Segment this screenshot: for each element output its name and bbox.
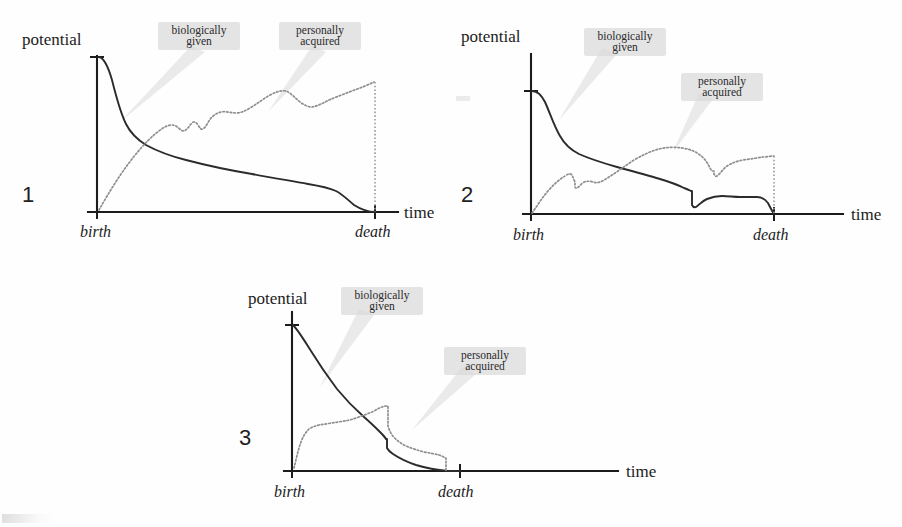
x-tick-label-death: death	[753, 226, 789, 243]
diagram-panel-2: potential 2 time birth death biologicall…	[451, 0, 902, 264]
scan-artifact-bottom-left	[2, 514, 54, 523]
figure-root: potential 1 time birth death biologicall…	[0, 0, 902, 527]
x-tick-label-birth: birth	[513, 226, 544, 243]
scan-artifact-center	[456, 96, 470, 101]
panel-number: 2	[461, 182, 473, 207]
x-axis-label: time	[851, 205, 881, 224]
x-tick-label-death: death	[438, 483, 474, 500]
diagram-panel-1: potential 1 time birth death biologicall…	[0, 0, 451, 264]
callout-tail-personally-acquired	[268, 46, 326, 112]
curve-biologically-given	[293, 325, 460, 471]
curve-personally-acquired	[532, 147, 774, 213]
curve-personally-acquired	[294, 406, 446, 471]
callout-tail-personally-acquired	[412, 367, 476, 430]
x-axis-label: time	[404, 203, 434, 222]
callout-personally-line2: acquired	[702, 86, 742, 99]
curve-biologically-given	[532, 91, 774, 214]
curve-biologically-given	[99, 57, 375, 212]
callout-biologically-line2: given	[186, 35, 212, 48]
callout-personally-line2: acquired	[300, 35, 340, 48]
y-axis-label: potential	[248, 289, 308, 308]
callout-biologically-line2: given	[612, 41, 638, 54]
panel-number: 1	[22, 182, 34, 207]
x-tick-label-birth: birth	[80, 223, 111, 240]
y-axis-label: potential	[461, 27, 521, 46]
x-tick-label-death: death	[355, 223, 391, 240]
panel-number: 3	[239, 425, 251, 450]
x-tick-label-birth: birth	[274, 483, 305, 500]
callout-tail-personally-acquired	[673, 93, 713, 152]
diagram-panel-3: potential 3 time birth death biologicall…	[226, 262, 686, 527]
callout-tail-biologically-given	[120, 46, 205, 122]
x-axis-label: time	[626, 462, 656, 481]
callout-personally-line2: acquired	[465, 360, 505, 373]
callout-tail-biologically-given	[559, 48, 617, 120]
y-axis-label: potential	[22, 30, 82, 49]
callout-biologically-line2: given	[369, 300, 395, 313]
